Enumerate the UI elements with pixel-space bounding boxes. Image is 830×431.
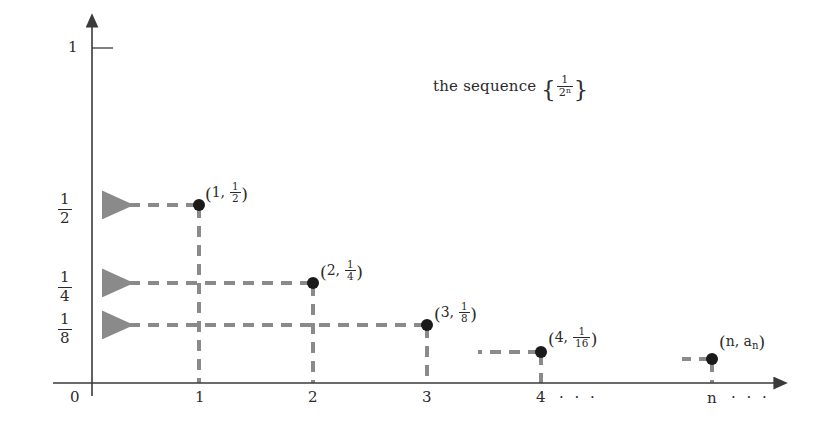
point-2-paren-close: ) <box>356 262 363 282</box>
y-axis-label-one-eighth: 1 8 <box>58 312 72 347</box>
x-axis-label-1: 1 <box>195 388 205 406</box>
point-1-numerator: 1 <box>230 181 240 193</box>
point-n-paren-close: ) <box>758 332 765 352</box>
sequence-figure: the sequence {12n} 1 1 2 1 4 1 8 0 1 2 3… <box>0 0 830 431</box>
title-brace-close: } <box>574 76 589 102</box>
point-1-sep: , <box>221 184 230 200</box>
point-2-paren-open: ( <box>320 262 327 282</box>
point-2-fraction: 14 <box>345 259 355 282</box>
point-4-paren-open: ( <box>548 329 555 349</box>
data-point-4 <box>535 346 547 358</box>
title-brace-open: { <box>541 76 556 102</box>
point-3-fraction: 18 <box>459 301 469 324</box>
x-axis-label-origin: 0 <box>70 388 80 406</box>
point-1-x: 1 <box>212 184 221 200</box>
point-n-x: n <box>726 333 735 349</box>
y-label-quarter-numerator: 1 <box>58 270 72 288</box>
point-label-3: (3, 18) <box>434 301 477 324</box>
point-3-sep: , <box>450 304 459 320</box>
x-axis-label-n: n <box>707 389 717 407</box>
y-axis-label-1: 1 <box>68 38 78 56</box>
point-1-paren-close: ) <box>241 184 248 204</box>
title-fraction-base: 2 <box>559 86 566 99</box>
point-n-sep: , <box>735 333 744 349</box>
point-3-denominator: 8 <box>459 313 469 324</box>
point-4-paren-close: ) <box>591 329 598 349</box>
point-label-1: (1, 12) <box>205 181 248 204</box>
point-2-denominator: 4 <box>345 271 355 282</box>
plot-canvas <box>0 0 830 431</box>
point-2-x: 2 <box>327 262 336 278</box>
y-label-eighth-denominator: 8 <box>58 330 72 347</box>
x-axis-ellipsis-after-4: · · · <box>559 388 598 406</box>
point-4-numerator: 1 <box>573 326 590 338</box>
y-label-half-denominator: 2 <box>58 210 72 227</box>
figure-title: the sequence {12n} <box>433 74 588 102</box>
x-axis-label-3: 3 <box>422 388 432 406</box>
point-1-fraction: 12 <box>230 181 240 204</box>
title-fraction-denominator: 2n <box>557 87 573 99</box>
x-axis-ellipsis-after-n: · · · <box>731 388 770 406</box>
dashed-guide-lines <box>104 205 712 383</box>
axes-group <box>53 26 775 396</box>
point-4-x: 4 <box>555 329 564 345</box>
data-point-2 <box>307 277 319 289</box>
point-3-x: 3 <box>441 304 450 320</box>
point-2-numerator: 1 <box>345 259 355 271</box>
point-label-4: (4, 116) <box>548 326 598 349</box>
point-n-paren-open: ( <box>719 332 726 352</box>
data-point-3 <box>421 319 433 331</box>
data-point-1 <box>193 199 205 211</box>
point-n-a: a <box>744 333 752 349</box>
y-label-half-numerator: 1 <box>58 192 72 210</box>
y-label-eighth-numerator: 1 <box>58 312 72 330</box>
point-4-denominator: 16 <box>573 338 590 349</box>
data-point-n <box>706 353 718 365</box>
point-label-n: (n, an) <box>719 332 765 352</box>
point-2-sep: , <box>336 262 345 278</box>
y-axis-label-one-quarter: 1 4 <box>58 270 72 305</box>
point-3-paren-close: ) <box>470 304 477 324</box>
point-3-numerator: 1 <box>459 301 469 313</box>
title-fraction: 12n <box>557 74 573 98</box>
point-4-sep: , <box>564 329 573 345</box>
point-4-fraction: 116 <box>573 326 590 349</box>
y-axis-label-one-half: 1 2 <box>58 192 72 227</box>
x-axis-label-4: 4 <box>536 388 546 406</box>
point-1-denominator: 2 <box>230 193 240 204</box>
point-1-paren-open: ( <box>205 184 212 204</box>
x-axis-label-2: 2 <box>308 388 318 406</box>
title-prefix: the sequence <box>433 77 536 95</box>
title-fraction-exponent: n <box>566 86 571 95</box>
point-label-2: (2, 14) <box>320 259 363 282</box>
point-3-paren-open: ( <box>434 304 441 324</box>
y-label-quarter-denominator: 4 <box>58 288 72 305</box>
